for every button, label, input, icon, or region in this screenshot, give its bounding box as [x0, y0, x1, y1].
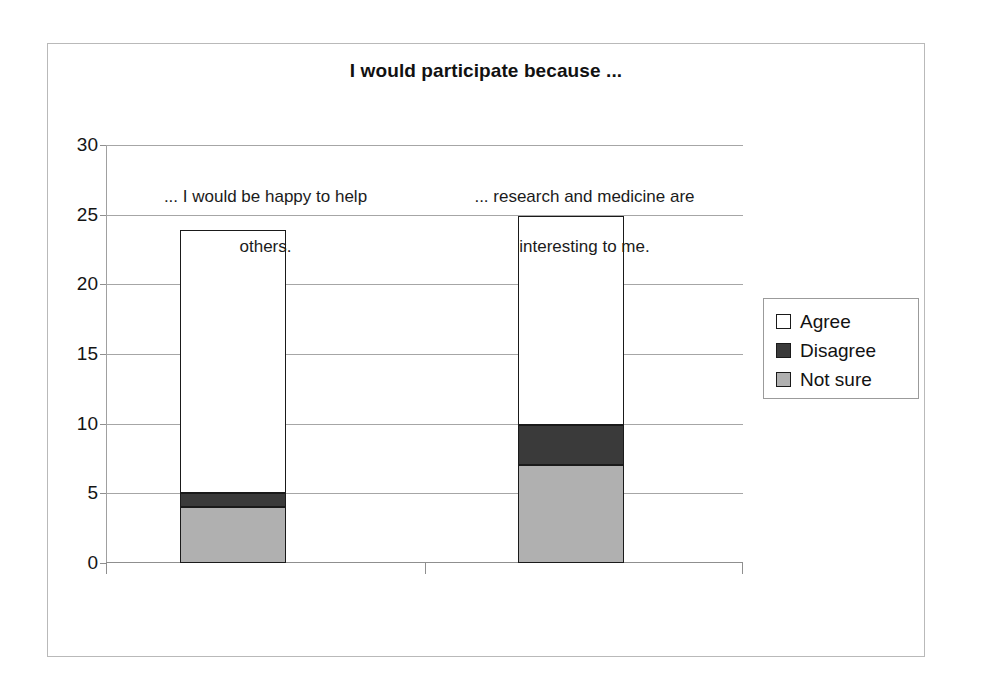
legend-swatch-agree-icon — [776, 314, 791, 329]
y-tick-mark-15 — [100, 354, 106, 355]
category-label-2-line-2: interesting to me. — [519, 237, 649, 256]
gridline-30 — [106, 145, 743, 146]
legend-swatch-disagree-icon — [776, 343, 791, 358]
x-axis-separator-start — [106, 563, 107, 574]
category-label-1-line-2: others. — [240, 237, 292, 256]
y-tick-label-15: 15 — [77, 343, 98, 365]
x-axis-separator-end — [742, 563, 743, 574]
bar-segment-agree-1[interactable] — [180, 230, 286, 493]
y-tick-label-20: 20 — [77, 273, 98, 295]
legend-item-agree[interactable]: Agree — [776, 307, 918, 336]
y-tick-label-0: 0 — [87, 552, 98, 574]
bar-segment-notsure-2[interactable] — [518, 465, 624, 563]
category-label-2-line-1: ... research and medicine are — [474, 187, 694, 206]
legend-item-disagree[interactable]: Disagree — [776, 336, 918, 365]
chart-frame: I would participate because ... 30 25 — [47, 43, 925, 657]
x-axis-category-label-2: ... research and medicine are interestin… — [425, 159, 744, 259]
x-axis-separator-middle — [425, 563, 426, 574]
bar-segment-notsure-1[interactable] — [180, 507, 286, 563]
y-tick-mark-5 — [100, 493, 106, 494]
y-tick-label-10: 10 — [77, 413, 98, 435]
y-tick-mark-30 — [100, 145, 106, 146]
chart-screenshot: I would participate because ... 30 25 — [0, 0, 982, 695]
chart-title: I would participate because ... — [48, 60, 924, 82]
plot-area: 30 25 20 15 10 5 0 — [106, 145, 743, 563]
legend-item-not-sure[interactable]: Not sure — [776, 365, 918, 394]
legend-label-agree: Agree — [800, 311, 851, 333]
chart-legend: Agree Disagree Not sure — [763, 298, 919, 399]
legend-label-disagree: Disagree — [800, 340, 876, 362]
legend-swatch-not-sure-icon — [776, 372, 791, 387]
y-tick-mark-20 — [100, 284, 106, 285]
category-label-1-line-1: ... I would be happy to help — [164, 187, 367, 206]
bar-segment-disagree-1[interactable] — [180, 493, 286, 507]
y-axis-labels: 30 25 20 15 10 5 0 — [58, 145, 98, 563]
y-tick-label-25: 25 — [77, 204, 98, 226]
y-tick-label-5: 5 — [87, 482, 98, 504]
y-tick-mark-10 — [100, 424, 106, 425]
bar-segment-disagree-2[interactable] — [518, 425, 624, 465]
x-axis-category-label-1: ... I would be happy to help others. — [106, 159, 425, 259]
legend-label-not-sure: Not sure — [800, 369, 872, 391]
y-tick-label-30: 30 — [77, 134, 98, 156]
